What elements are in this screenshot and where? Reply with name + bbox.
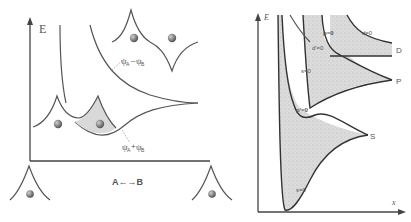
right-panel: E x D P S d=0 p=0 d'=0 s=0 p'=0 s=0	[255, 13, 406, 215]
nucleus-b-icon	[96, 120, 104, 128]
nucleus-b-top-icon	[168, 34, 176, 42]
atom-b-icon	[208, 190, 216, 198]
separation-axis-label: A←→B	[112, 177, 143, 187]
level-label-p: P	[396, 77, 401, 86]
d-band-region	[330, 15, 392, 56]
right-x-axis-arrow-icon	[398, 209, 406, 215]
svg-text:B: B	[141, 147, 145, 153]
repulsive-curve	[60, 25, 66, 103]
right-y-axis-arrow-icon	[255, 13, 261, 21]
antibonding-label: ψ A – ψ B	[121, 56, 145, 67]
y-axis-arrow-icon	[27, 17, 33, 25]
level-label-d: D	[396, 46, 402, 55]
node-label-dprime0: d'=0	[312, 45, 324, 51]
node-label-p0: p=0	[323, 30, 334, 36]
node-label-d0: d=0	[362, 30, 373, 36]
level-label-s: S	[370, 132, 375, 141]
diagram-canvas: E ψ A – ψ B ψ A + ψ B A←→B	[0, 0, 411, 222]
left-panel: E ψ A – ψ B ψ A + ψ B A←→B	[10, 10, 232, 200]
svg-text:A: A	[126, 61, 130, 67]
nucleus-a-icon	[54, 120, 62, 128]
svg-text:B: B	[141, 61, 145, 67]
bonding-label: ψ A + ψ B	[122, 142, 145, 153]
energy-axis-label: E	[39, 22, 46, 36]
right-x-axis-label: x	[391, 198, 396, 207]
node-label-pprime0: p'=0	[296, 107, 309, 113]
node-label-s0-lower: s=0	[296, 187, 307, 193]
node-label-s0-upper: s=0	[301, 68, 312, 74]
atom-a-icon	[26, 190, 34, 198]
nucleus-a-top-icon	[130, 34, 138, 42]
right-energy-axis-label: E	[263, 13, 269, 22]
